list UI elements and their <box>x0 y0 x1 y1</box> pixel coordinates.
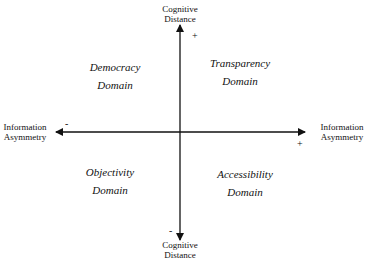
quadrant-bottom-right: Accessibility Domain <box>200 165 290 201</box>
horizontal-positive-sign: + <box>297 139 303 149</box>
label-line: Information <box>316 122 368 132</box>
quadrant-top-left: Democracy Domain <box>70 58 160 94</box>
quadrant-top-right: Transparency Domain <box>195 54 285 90</box>
quadrant-bottom-left: Objectivity Domain <box>65 163 155 199</box>
domain-line: Domain <box>70 76 160 94</box>
vertical-axis-bottom-label: Cognitive Distance <box>145 240 215 260</box>
label-line: Information <box>0 122 50 132</box>
axes-graphic <box>0 0 368 261</box>
domain-line: Democracy <box>70 58 160 76</box>
label-line: Asymmetry <box>0 132 50 142</box>
vertical-axis-top-label: Cognitive Distance <box>145 4 215 24</box>
domain-line: Transparency <box>195 54 285 72</box>
domain-line: Objectivity <box>65 163 155 181</box>
domain-line: Domain <box>200 183 290 201</box>
label-line: Cognitive <box>145 240 215 250</box>
label-line: Distance <box>145 250 215 260</box>
domain-line: Domain <box>65 181 155 199</box>
label-line: Asymmetry <box>316 132 368 142</box>
label-line: Distance <box>145 14 215 24</box>
label-line: Cognitive <box>145 4 215 14</box>
vertical-negative-sign: - <box>169 226 172 236</box>
horizontal-axis-left-label: Information Asymmetry <box>0 122 50 142</box>
vertical-positive-sign: + <box>192 31 198 41</box>
horizontal-negative-sign: - <box>65 119 68 129</box>
domain-line: Accessibility <box>200 165 290 183</box>
horizontal-axis-right-label: Information Asymmetry <box>316 122 368 142</box>
domain-line: Domain <box>195 72 285 90</box>
